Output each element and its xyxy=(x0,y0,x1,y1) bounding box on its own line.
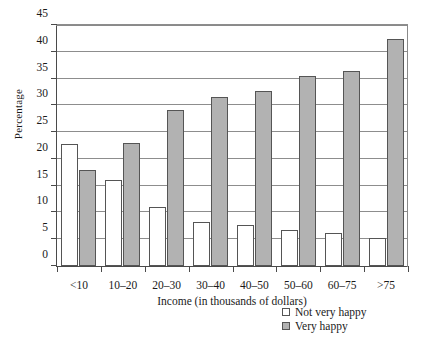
y-axis-tick xyxy=(51,78,57,79)
legend-swatch-icon xyxy=(282,322,290,330)
gridline xyxy=(57,51,408,52)
y-axis-tick-label: 0 xyxy=(42,248,48,260)
y-axis-tick-label: 5 xyxy=(42,221,48,233)
x-axis-tick xyxy=(101,266,102,272)
legend-label: Very happy xyxy=(295,319,348,333)
bar xyxy=(369,238,386,266)
x-axis-tick xyxy=(57,266,58,272)
y-axis-tick xyxy=(51,51,57,52)
y-axis-tick-label: 20 xyxy=(37,141,49,153)
legend-item: Not very happy xyxy=(282,305,367,319)
bar xyxy=(61,144,78,266)
x-axis-tick-label: 30–40 xyxy=(196,279,225,291)
y-axis-tick xyxy=(51,185,57,186)
x-axis-tick xyxy=(364,266,365,272)
x-axis-tick-label: 50–60 xyxy=(284,279,313,291)
legend-item: Very happy xyxy=(282,319,367,333)
legend-label: Not very happy xyxy=(295,305,367,319)
y-axis-tick xyxy=(51,238,57,239)
gridline xyxy=(57,24,408,25)
x-axis-tick xyxy=(189,266,190,272)
y-axis-tick-label: 10 xyxy=(37,194,49,206)
bar xyxy=(281,230,298,266)
bar xyxy=(167,110,184,266)
x-axis-tick xyxy=(408,266,409,272)
y-axis-tick-label: 25 xyxy=(37,114,49,126)
x-axis-tick xyxy=(145,266,146,272)
y-axis-tick-label: 45 xyxy=(37,7,49,19)
bar xyxy=(343,71,360,266)
x-axis-tick-label: 10–20 xyxy=(108,279,137,291)
y-axis-tick-label: 35 xyxy=(37,61,49,73)
x-axis-tick-label: 40–50 xyxy=(240,279,269,291)
bar xyxy=(149,207,166,266)
y-axis-tick-label: 40 xyxy=(37,34,49,46)
plot-area: 051015202530354045<1010–2020–3030–4040–5… xyxy=(56,25,408,267)
bar xyxy=(211,97,228,266)
y-axis-tick xyxy=(51,131,57,132)
y-axis-tick xyxy=(51,211,57,212)
bar xyxy=(193,222,210,266)
y-axis-tick xyxy=(51,24,57,25)
bar xyxy=(237,225,254,266)
x-axis-tick xyxy=(233,266,234,272)
x-axis-tick xyxy=(320,266,321,272)
y-axis-tick xyxy=(51,104,57,105)
bar xyxy=(255,91,272,266)
bar xyxy=(105,180,122,266)
y-axis-tick xyxy=(51,158,57,159)
legend-swatch-icon xyxy=(282,308,290,316)
y-axis-tick-label: 30 xyxy=(37,87,49,99)
x-axis-tick-label: <10 xyxy=(70,279,88,291)
y-axis-title: Percentage xyxy=(12,64,24,164)
x-axis-tick-label: 20–30 xyxy=(152,279,181,291)
bar xyxy=(325,233,342,266)
bar xyxy=(123,143,140,266)
bar xyxy=(299,76,316,266)
x-axis-tick-label: >75 xyxy=(377,279,395,291)
y-axis-tick-label: 15 xyxy=(37,168,49,180)
x-axis-tick xyxy=(276,266,277,272)
x-axis-tick-label: 60–75 xyxy=(328,279,357,291)
chart-legend: Not very happyVery happy xyxy=(282,305,367,333)
bar xyxy=(387,39,404,266)
bar xyxy=(79,170,96,266)
bar-chart-figure: Percentage 051015202530354045<1010–2020–… xyxy=(0,0,421,337)
